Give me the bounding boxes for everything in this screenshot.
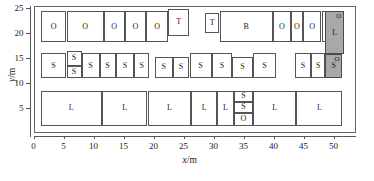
x-axis-tick-label: 40 (259, 141, 289, 151)
layout-cell-s: S (253, 53, 276, 78)
layout-cell-label: S (51, 62, 55, 70)
layout-cell-label: O (51, 23, 57, 31)
x-axis-tick (184, 136, 185, 139)
layout-cell-s: SO (325, 54, 342, 78)
y-axis-tick (26, 58, 30, 59)
layout-cell-label: L (272, 104, 277, 112)
layout-cell-l: L (41, 91, 102, 126)
layout-cell-s: S (155, 57, 173, 79)
layout-cell-label: L (332, 29, 337, 37)
layout-cell-s: S (134, 53, 149, 78)
layout-cell-label: L (122, 104, 127, 112)
y-axis-tick-label: 25 (2, 3, 24, 13)
layout-cell-o: O (234, 113, 253, 126)
layout-cell-label: O (294, 23, 300, 31)
y-axis-tick (26, 33, 30, 34)
layout-cell-s: S (100, 53, 116, 78)
layout-cell-o: O (125, 11, 147, 42)
layout-cell-label: S (123, 62, 127, 70)
layout-cell-label: S (105, 62, 109, 70)
layout-cell-s: S (212, 53, 232, 78)
x-axis-tick-label: 45 (289, 141, 319, 151)
layout-cell-label: O (82, 23, 88, 31)
layout-cell-s: S (234, 102, 253, 114)
layout-cell-superscript: O (336, 13, 341, 20)
x-axis-tick-label: 0 (19, 141, 49, 151)
x-axis-tick (214, 136, 215, 139)
layout-cell-s: S (67, 66, 82, 79)
x-axis-tick (124, 136, 125, 139)
layout-cell-label: S (72, 68, 76, 76)
layout-cell-s: S (67, 51, 82, 66)
layout-diagram-figure: x/m y/m 05101520253035404550510152025OOO… (0, 0, 374, 181)
layout-cell-label: T (210, 19, 215, 27)
x-axis-tick-label: 20 (139, 141, 169, 151)
y-axis-tick-label: 10 (2, 78, 24, 88)
layout-cell-label: L (69, 104, 74, 112)
x-axis-tick (154, 136, 155, 139)
y-axis-tick-label: 15 (2, 53, 24, 63)
layout-cell-s: S (232, 57, 253, 79)
layout-cell-label: L (317, 104, 322, 112)
layout-cell-o: O (41, 11, 67, 42)
layout-cell-t: T (205, 13, 219, 33)
layout-cell-label: S (332, 62, 336, 70)
y-axis-tick (26, 83, 30, 84)
layout-cell-label: S (161, 63, 165, 71)
layout-cell-o: O (291, 11, 303, 42)
layout-cell-l: LO (325, 11, 344, 54)
layout-cell-s: S (116, 53, 135, 78)
layout-cell-s: S (311, 53, 325, 78)
x-axis-tick (304, 136, 305, 139)
layout-cell-label: S (88, 62, 92, 70)
layout-cell-label: O (241, 115, 247, 123)
layout-cell-l: L (148, 91, 192, 126)
layout-cell-label: T (176, 18, 181, 26)
layout-cell-s: S (234, 91, 253, 102)
x-axis-line (34, 136, 356, 137)
x-axis-tick (244, 136, 245, 139)
y-axis-line (30, 6, 31, 137)
x-axis-tick-label: 35 (229, 141, 259, 151)
x-axis-tick (94, 136, 95, 139)
layout-cell-label: L (202, 104, 207, 112)
y-axis-tick (26, 108, 30, 109)
layout-cell-label: S (220, 62, 224, 70)
layout-cell-l: L (102, 91, 148, 126)
layout-cell-label: S (198, 62, 202, 70)
layout-cell-label: O (154, 23, 160, 31)
layout-cell-o: O (67, 11, 104, 42)
layout-cell-o: O (146, 11, 168, 42)
layout-cell-label: L (167, 104, 172, 112)
layout-cell-label: O (111, 23, 117, 31)
layout-cell-label: L (223, 104, 228, 112)
layout-cell-s: S (173, 57, 190, 79)
layout-cell-label: O (279, 23, 285, 31)
layout-cell-l: L (296, 91, 342, 126)
x-axis-tick-label: 50 (319, 141, 349, 151)
layout-cell-label: S (241, 92, 245, 100)
layout-cell-s: S (295, 53, 312, 78)
x-axis-tick (64, 136, 65, 139)
x-axis-tick-label: 15 (109, 141, 139, 151)
layout-cell-s: S (190, 53, 212, 78)
x-axis-tick-label: 5 (49, 141, 79, 151)
x-axis-tick (34, 136, 35, 139)
layout-cell-label: S (316, 62, 320, 70)
x-axis-tick-label: 25 (169, 141, 199, 151)
layout-cell-o: O (104, 11, 125, 42)
layout-cell-superscript: O (334, 56, 339, 63)
x-axis-tick-label: 10 (79, 141, 109, 151)
layout-cell-o: O (303, 11, 322, 42)
y-axis-tick-label: 5 (2, 103, 24, 113)
layout-cell-s: S (41, 53, 67, 78)
layout-cell-l: L (217, 91, 234, 126)
x-axis-tick-label: 30 (199, 141, 229, 151)
layout-cell-label: S (179, 63, 183, 71)
layout-cell-label: B (244, 23, 249, 31)
layout-cell-label: O (133, 23, 139, 31)
layout-cell-label: S (240, 63, 244, 71)
y-axis-tick-label: 20 (2, 28, 24, 38)
layout-cell-s: S (82, 53, 100, 78)
layout-cell-label: O (309, 23, 315, 31)
